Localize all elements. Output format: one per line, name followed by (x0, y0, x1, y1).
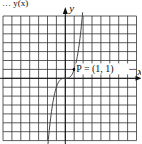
point-p-label: P = (1, 1) (76, 63, 114, 75)
y-axis-arrow (63, 7, 68, 14)
chart-title: … y(x) (2, 0, 28, 8)
chart: … y(x) x y P = (1, 1) (0, 0, 141, 144)
x-axis-label: x (137, 65, 142, 77)
y-axis-label: y (68, 2, 74, 14)
